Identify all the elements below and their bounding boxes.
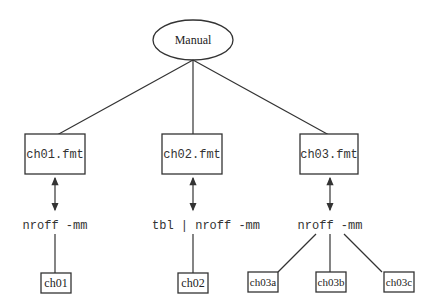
root-node: Manual: [153, 20, 233, 60]
svg-text:ch03b: ch03b: [318, 276, 345, 288]
output-node-ch03a: ch03a: [248, 272, 278, 292]
output-node-ch03b: ch03b: [316, 272, 346, 292]
chapter-file-label: ch02.fmt: [163, 148, 221, 162]
output-node-ch03c: ch03c: [384, 272, 414, 292]
chapter-file-label: ch01.fmt: [26, 148, 84, 162]
edge-ch03-a: [278, 234, 316, 272]
edge-root-ch03: [193, 60, 329, 135]
chapter-node-ch02: ch02.fmt: [162, 134, 222, 174]
edge-root-ch01: [57, 60, 193, 135]
svg-text:ch03a: ch03a: [250, 276, 276, 288]
command-label-ch01: nroff -mm: [23, 219, 88, 233]
chapter-node-ch01: ch01.fmt: [25, 134, 85, 174]
command-label-ch02: tbl | nroff -mm: [152, 219, 260, 233]
command-label-ch03: nroff -mm: [298, 219, 363, 233]
output-node-ch02: ch02: [178, 273, 208, 293]
svg-text:ch02: ch02: [181, 276, 204, 290]
svg-text:ch03c: ch03c: [386, 276, 412, 288]
svg-text:ch01: ch01: [44, 276, 67, 290]
document-tree-diagram: Manual ch01.fmt nroff -mm ch01 ch02.fmt …: [0, 0, 435, 307]
output-node-ch01: ch01: [41, 273, 71, 293]
edge-ch03-c: [344, 234, 382, 272]
chapter-node-ch03: ch03.fmt: [300, 134, 358, 174]
root-label: Manual: [175, 33, 212, 47]
chapter-file-label: ch03.fmt: [300, 148, 358, 162]
